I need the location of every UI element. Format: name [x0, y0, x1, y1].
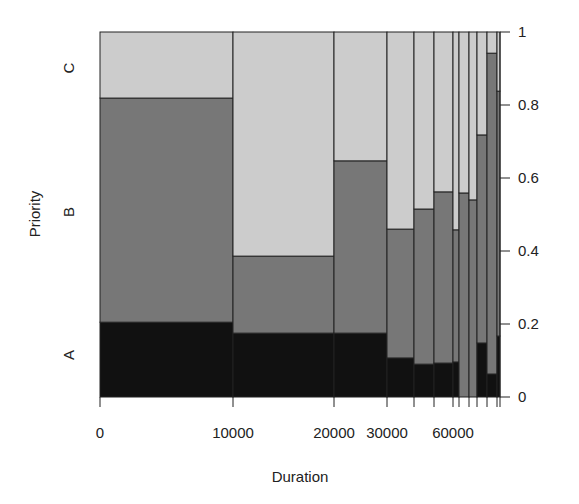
bar-segment-b: [434, 192, 453, 363]
bar-segment-b: [100, 98, 233, 322]
x-tick-label: 60000: [432, 424, 474, 441]
x-tick-label: 0: [96, 424, 104, 441]
y-tick-label: 0.8: [518, 96, 539, 113]
y-category-label: A: [60, 350, 77, 360]
bar-segment-c: [459, 32, 469, 193]
bar-segment-a: [434, 363, 453, 397]
y-tick-label: 0.2: [518, 315, 539, 332]
x-axis: 010000200003000060000: [96, 397, 500, 441]
x-tick-label: 20000: [313, 424, 355, 441]
bar-segment-b: [453, 230, 459, 362]
y-tick-label: 1: [518, 23, 526, 40]
x-axis-title: Duration: [272, 468, 329, 485]
bar-segment-b: [387, 229, 414, 358]
bar-segment-b: [487, 53, 497, 374]
bar-segment-c: [334, 32, 387, 161]
bars-group: [100, 32, 500, 397]
bar-segment-a: [100, 322, 233, 397]
y-category-label: C: [60, 62, 77, 73]
bar-segment-c: [453, 32, 459, 230]
y-tick-label: 0.6: [518, 169, 539, 186]
bar-segment-b: [233, 256, 334, 333]
x-tick-label: 30000: [366, 424, 408, 441]
y-tick-label: 0: [518, 388, 526, 405]
bar-segment-b: [477, 135, 487, 343]
bar-segment-a: [387, 358, 414, 397]
bar-segment-c: [100, 32, 233, 98]
bar-segment-b: [414, 209, 434, 364]
bar-segment-b: [334, 161, 387, 333]
bar-segment-c: [233, 32, 334, 256]
bar-segment-a: [453, 362, 459, 397]
y-axis-right: 00.20.40.60.81: [500, 23, 539, 405]
y-category-label: B: [60, 207, 77, 217]
bar-segment-c: [414, 32, 434, 209]
x-tick-label: 10000: [212, 424, 254, 441]
bar-segment-a: [414, 364, 434, 397]
y-tick-label: 0.4: [518, 242, 539, 259]
bar-segment-c: [477, 32, 487, 135]
spineplot-chart: 010000200003000060000 00.20.40.60.81 ABC…: [0, 0, 579, 504]
bar-segment-c: [487, 32, 497, 53]
bar-segment-a: [477, 343, 487, 397]
bar-segment-b: [459, 193, 469, 397]
bar-segment-b: [469, 200, 477, 397]
bar-segment-a: [487, 374, 497, 397]
bar-segment-a: [334, 333, 387, 397]
bar-segment-c: [434, 32, 453, 192]
bar-segment-a: [233, 333, 334, 397]
bar-segment-c: [469, 32, 477, 200]
y-axis-left: ABC: [60, 62, 77, 360]
y-axis-title: Priority: [26, 190, 43, 237]
bar-segment-c: [387, 32, 414, 229]
